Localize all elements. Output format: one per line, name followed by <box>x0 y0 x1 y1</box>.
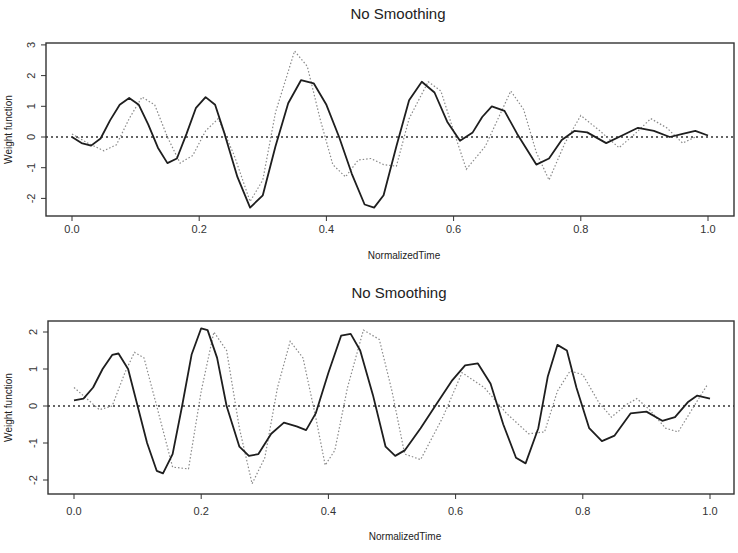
y-tick-label: 2 <box>27 329 39 335</box>
y-axis: -2-10123 <box>25 42 46 203</box>
y-tick-label: -1 <box>25 163 37 173</box>
x-tick-label: 1.0 <box>702 505 717 517</box>
chart-title: No Smoothing <box>350 5 445 22</box>
dotted-series-line <box>72 51 695 202</box>
y-tick-label: 0 <box>27 403 39 409</box>
chart-title: No Smoothing <box>351 284 446 301</box>
x-tick-label: 0.4 <box>321 505 336 517</box>
y-tick-label: 3 <box>25 42 37 48</box>
top-chart: No Smoothing -2-10123 0.00.20.40.60.81.0… <box>3 5 734 261</box>
x-tick-label: 0.8 <box>575 505 590 517</box>
solid-series-line <box>74 328 710 473</box>
x-tick-label: 0.2 <box>192 223 207 235</box>
y-tick-label: -2 <box>27 475 39 485</box>
x-axis-label: NormalizedTime <box>369 531 442 542</box>
figure: No Smoothing -2-10123 0.00.20.40.60.81.0… <box>0 0 738 553</box>
y-tick-label: 2 <box>25 73 37 79</box>
y-axis-label: Weight function <box>3 95 14 164</box>
solid-series-line <box>72 80 708 207</box>
y-axis: -2-1012 <box>27 329 48 485</box>
bottom-chart: No Smoothing -2-1012 0.00.20.40.60.81.0 … <box>3 284 734 542</box>
x-tick-label: 1.0 <box>700 223 715 235</box>
y-tick-label: -1 <box>27 438 39 448</box>
plot-frame <box>46 43 734 216</box>
plot-frame <box>48 321 734 494</box>
x-tick-label: 0.6 <box>448 505 463 517</box>
x-tick-label: 0.0 <box>64 223 79 235</box>
y-axis-label: Weight function <box>3 373 14 442</box>
x-tick-label: 0.8 <box>573 223 588 235</box>
x-tick-label: 0.4 <box>319 223 334 235</box>
y-tick-label: 1 <box>27 366 39 372</box>
x-tick-label: 0.2 <box>194 505 209 517</box>
y-tick-label: 1 <box>25 103 37 109</box>
x-axis: 0.00.20.40.60.81.0 <box>66 494 717 517</box>
x-tick-label: 0.0 <box>66 505 81 517</box>
x-axis-label: NormalizedTime <box>368 250 441 261</box>
x-axis: 0.00.20.40.60.81.0 <box>64 216 715 235</box>
y-tick-label: -2 <box>25 194 37 204</box>
y-tick-label: 0 <box>25 134 37 140</box>
x-tick-label: 0.6 <box>446 223 461 235</box>
